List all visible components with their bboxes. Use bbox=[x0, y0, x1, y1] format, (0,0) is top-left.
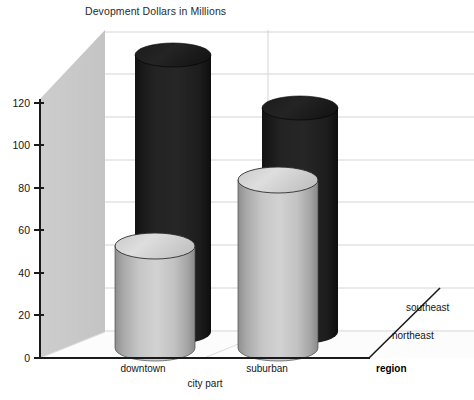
y-tick-label-0: 0 bbox=[2, 353, 30, 364]
z-category-label-southeast: southeast bbox=[406, 303, 449, 313]
chart-canvas: Devopment Dollars in Millions 120 100 80… bbox=[0, 0, 474, 400]
chart-title: Devopment Dollars in Millions bbox=[85, 6, 226, 17]
x-category-label-downtown: downtown bbox=[120, 364, 165, 374]
chart-labels: Devopment Dollars in Millions 120 100 80… bbox=[0, 0, 474, 400]
y-tick-label-60: 60 bbox=[2, 225, 30, 236]
y-tick-label-120: 120 bbox=[2, 98, 30, 109]
y-tick-label-100: 100 bbox=[2, 140, 30, 151]
x-category-label-suburban: suburban bbox=[246, 364, 288, 374]
y-tick-label-20: 20 bbox=[2, 310, 30, 321]
y-tick-label-40: 40 bbox=[2, 268, 30, 279]
y-tick-label-80: 80 bbox=[2, 183, 30, 194]
z-axis-title: region bbox=[376, 364, 407, 374]
z-category-label-northeast: northeast bbox=[392, 331, 434, 341]
x-axis-title: city part bbox=[187, 379, 222, 389]
